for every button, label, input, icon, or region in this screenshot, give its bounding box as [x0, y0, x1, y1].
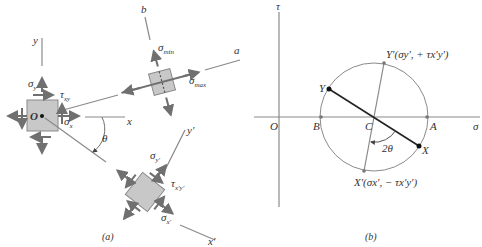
- point-x: [417, 144, 422, 149]
- y-prime-axis: [165, 130, 185, 170]
- label-b: B: [313, 120, 320, 132]
- b-axis: [145, 17, 150, 40]
- sigma-x-label: σx: [64, 115, 73, 130]
- label-a: A: [429, 120, 437, 132]
- point-y: [327, 87, 332, 92]
- x-prime-label: x': [207, 235, 216, 247]
- two-theta-label: 2θ: [382, 142, 394, 154]
- sigma-min-arrow-top: [154, 51, 158, 66]
- sigma-x-prime-label: σx': [161, 211, 172, 226]
- sigma-y-prime-label: σy': [150, 149, 161, 164]
- theta-label: θ: [102, 132, 108, 144]
- sigma-axis-label: σ: [473, 120, 479, 132]
- y-axis-label: y: [32, 34, 38, 46]
- b-axis-label: b: [141, 3, 147, 15]
- panel-a: y x a b O σy τxy σx x' y': [8, 3, 240, 247]
- label-x: X: [421, 144, 430, 156]
- label-y-prime: Y'(σy', + τx'y'): [386, 48, 449, 61]
- origin-point: [40, 114, 44, 118]
- origin-label: O: [30, 110, 38, 122]
- sigma-max-arrow-left: [123, 88, 140, 93]
- label-o: O: [270, 120, 278, 132]
- point-y-prime: [382, 61, 386, 65]
- point-x-prime: [362, 169, 366, 173]
- x-axis-label: x: [126, 115, 132, 127]
- point-b: [319, 115, 323, 119]
- tau-xy-label: τxy: [60, 88, 71, 103]
- a-axis-line-far: [205, 60, 240, 70]
- mohr-circle-figure: y x a b O σy τxy σx x' y': [0, 0, 482, 247]
- caption-a: (a): [102, 231, 114, 243]
- tau-axis-label: τ: [276, 0, 281, 12]
- panel-b: τ σ 2θ O B C A X Y Y'(σy', + τx'y') X'(σ…: [254, 0, 480, 243]
- sigma-max-label: σmax: [189, 74, 207, 89]
- sigma-min-label: σmin: [158, 41, 174, 56]
- sigma-y-label: σy: [28, 77, 37, 92]
- caption-b: (b): [365, 231, 377, 243]
- two-theta-arc: [371, 130, 396, 142]
- rotated-element: [96, 144, 193, 241]
- tau-x-prime-y-prime-label: τx'y': [171, 177, 185, 192]
- point-a: [425, 115, 429, 119]
- sigma-min-arrow-bottom: [166, 97, 171, 114]
- x-prime-axis: [45, 118, 106, 162]
- a-axis-label: a: [234, 44, 240, 56]
- y-prime-label: y': [186, 124, 195, 136]
- label-x-prime: X'(σx', − τx'y'): [353, 176, 417, 189]
- label-c: C: [365, 120, 373, 132]
